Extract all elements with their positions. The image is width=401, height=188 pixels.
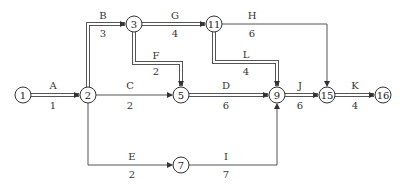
activity-k-name: K: [351, 80, 359, 91]
node-15-label: 15: [321, 90, 334, 101]
activity-j-duration: 6: [297, 100, 303, 111]
node-5: 5: [173, 87, 189, 103]
activity-j-name: J: [297, 80, 302, 91]
activity-l-duration: 4: [243, 66, 249, 77]
activity-i-duration: 7: [223, 169, 229, 180]
activity-b-name: B: [99, 10, 106, 21]
node-2: 2: [80, 87, 96, 103]
activity-b-duration: 3: [100, 28, 106, 39]
node-1: 1: [15, 87, 31, 103]
activity-d-name: D: [222, 80, 230, 91]
activity-c-name: C: [126, 80, 134, 91]
node-2-label: 2: [85, 90, 91, 101]
activity-h-name: H: [248, 10, 257, 21]
node-16: 16: [375, 87, 391, 103]
activity-e-duration: 2: [129, 169, 135, 180]
activity-a-name: A: [48, 80, 57, 91]
activity-i-arrow: [189, 104, 277, 165]
node-15: 15: [319, 87, 335, 103]
activity-a-duration: 1: [50, 100, 56, 111]
node-7: 7: [173, 157, 189, 173]
node-9-label: 9: [274, 90, 280, 101]
node-11-label: 11: [208, 19, 221, 30]
node-9: 9: [269, 87, 285, 103]
activity-j-arrow: [285, 92, 319, 98]
activity-g-duration: 4: [172, 28, 178, 39]
node-16-label: 16: [377, 90, 390, 101]
activity-f-name: F: [153, 50, 160, 61]
network-diagram: A 1 B 3 C 2 E 2 G 4 F 2 H 6 L 4 D 6 I 7 …: [0, 0, 401, 188]
activity-d-arrow: [189, 92, 269, 98]
activity-c-duration: 2: [127, 100, 133, 111]
activity-g-name: G: [171, 10, 179, 21]
node-5-label: 5: [178, 90, 184, 101]
activity-k-duration: 4: [352, 100, 358, 111]
activity-a-arrow: [31, 92, 80, 98]
activity-b-arrow: [88, 21, 126, 87]
node-7-label: 7: [178, 160, 184, 171]
node-3: 3: [126, 16, 142, 32]
activity-d-duration: 6: [223, 100, 229, 111]
activity-h-duration: 6: [249, 28, 255, 39]
activity-g-arrow: [142, 21, 206, 27]
node-1-label: 1: [20, 90, 26, 101]
node-11: 11: [206, 16, 222, 32]
node-3-label: 3: [131, 19, 137, 30]
activity-k-arrow: [335, 92, 375, 98]
activity-h-arrow: [222, 24, 327, 86]
activity-e-name: E: [128, 151, 135, 162]
activity-i-name: I: [224, 151, 228, 162]
activity-l-name: L: [243, 49, 250, 60]
activity-f-duration: 2: [153, 66, 159, 77]
